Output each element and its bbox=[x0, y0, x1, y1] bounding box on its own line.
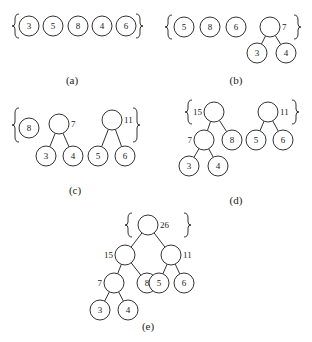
brace-right-a bbox=[136, 14, 143, 38]
brace-right-d bbox=[292, 100, 299, 124]
node-weight-label: 15 bbox=[104, 250, 114, 260]
internal-node bbox=[204, 102, 224, 122]
tree-edge bbox=[131, 263, 141, 275]
tree-edge bbox=[131, 233, 142, 247]
tree-edge bbox=[209, 149, 214, 157]
tree-edge bbox=[105, 292, 110, 301]
node-weight-label: 11 bbox=[183, 250, 192, 260]
node-value: 8 bbox=[230, 135, 235, 145]
node-value: 4 bbox=[100, 21, 105, 31]
node-value: 3 bbox=[27, 21, 32, 31]
tree-edge bbox=[119, 292, 124, 301]
tree-edge bbox=[207, 121, 210, 130]
internal-node bbox=[258, 102, 278, 122]
node-value: 4 bbox=[216, 161, 221, 171]
brace-left-c bbox=[12, 108, 19, 142]
node-value: 4 bbox=[126, 305, 131, 315]
node-value: 6 bbox=[123, 151, 128, 161]
node-value: 6 bbox=[281, 135, 286, 145]
node-value: 3 bbox=[255, 48, 260, 58]
node-value: 5 bbox=[254, 135, 259, 145]
tree-edge bbox=[194, 149, 199, 158]
caption-b: (b) bbox=[230, 74, 243, 87]
internal-node bbox=[194, 130, 214, 150]
tree-edge bbox=[163, 264, 167, 274]
node-value: 3 bbox=[187, 161, 192, 171]
brace-left-e bbox=[125, 213, 132, 237]
brace-left-d bbox=[185, 100, 192, 124]
tree-edge bbox=[115, 129, 121, 146]
brace-left-a bbox=[12, 14, 19, 38]
tree-edge bbox=[219, 120, 226, 131]
tree-edge bbox=[273, 121, 279, 131]
caption-a: (a) bbox=[66, 74, 79, 87]
node-value: 5 bbox=[157, 278, 162, 288]
node-weight-label: 7 bbox=[98, 278, 103, 288]
node-value: 8 bbox=[76, 21, 81, 31]
caption-e: (e) bbox=[142, 320, 155, 333]
internal-node bbox=[104, 273, 124, 293]
node-value: 8 bbox=[208, 22, 213, 32]
tree-edge bbox=[275, 36, 281, 45]
tree-edge bbox=[102, 129, 109, 146]
tree-edge bbox=[261, 36, 265, 44]
node-value: 3 bbox=[44, 151, 49, 161]
caption-c: (c) bbox=[69, 184, 82, 197]
node-value: 3 bbox=[98, 305, 103, 315]
node-weight-label: 15 bbox=[193, 107, 203, 117]
tree-edge bbox=[63, 133, 69, 147]
internal-node bbox=[161, 245, 181, 265]
internal-node bbox=[49, 114, 69, 134]
node-value: 6 bbox=[234, 22, 239, 32]
brace-right-e bbox=[184, 213, 191, 237]
node-value: 5 bbox=[182, 22, 187, 32]
tree-edge bbox=[50, 133, 55, 146]
caption-d: (d) bbox=[230, 194, 243, 207]
node-value: 6 bbox=[182, 278, 187, 288]
node-weight-label: 7 bbox=[282, 22, 287, 32]
brace-right-c bbox=[133, 108, 140, 142]
tree-edge bbox=[260, 121, 264, 131]
node-value: 5 bbox=[51, 21, 56, 31]
tree-edge bbox=[154, 233, 165, 247]
brace-left-b bbox=[165, 15, 172, 39]
tree-edge bbox=[175, 264, 180, 274]
internal-node bbox=[115, 245, 135, 265]
forest-layer: 3584658673487341156157348115626157348115… bbox=[12, 14, 301, 320]
tree-edge bbox=[118, 264, 122, 273]
internal-node bbox=[138, 215, 158, 235]
node-weight-label: 11 bbox=[280, 107, 289, 117]
node-weight-label: 11 bbox=[124, 115, 133, 125]
node-weight-label: 7 bbox=[71, 119, 76, 129]
node-value: 6 bbox=[124, 21, 129, 31]
brace-right-b bbox=[294, 15, 301, 39]
node-value: 5 bbox=[96, 151, 101, 161]
node-value: 8 bbox=[27, 123, 32, 133]
huffman-diagram: (a) (b) (c) (d) (e) 35846586734873411561… bbox=[0, 0, 312, 342]
internal-node bbox=[102, 110, 122, 130]
node-weight-label: 7 bbox=[188, 135, 193, 145]
internal-node bbox=[260, 17, 280, 37]
node-value: 4 bbox=[71, 151, 76, 161]
node-value: 4 bbox=[284, 48, 289, 58]
node-weight-label: 26 bbox=[160, 220, 170, 230]
